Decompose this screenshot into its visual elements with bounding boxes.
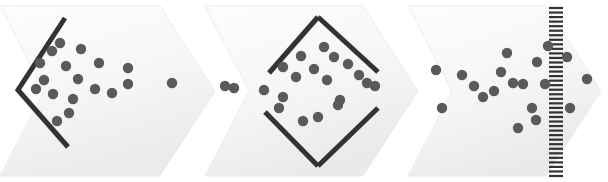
dot-stage-1 [94,58,104,68]
dot-stage-2 [313,112,323,122]
dot-stage-2 [278,92,288,102]
dot-stage-1 [64,108,74,118]
dot-stage-3 [437,103,447,113]
dot-stage-2 [343,59,353,69]
comb-tick [549,152,563,154]
dot-stage-3 [508,78,518,88]
comb-tick [549,107,563,109]
dot-stage-3 [457,70,467,80]
diagram-svg [0,0,608,182]
dot-stage-2 [319,42,329,52]
comb-tick [549,66,563,68]
dot-stage-2 [296,51,306,61]
comb-tick [549,93,563,95]
dot-stage-1 [52,116,62,126]
dot-stage-1 [31,84,41,94]
dot-stage-1 [90,84,100,94]
dot-stage-3 [565,103,575,113]
comb-tick [549,39,563,41]
comb-tick [549,30,563,32]
comb-tick [549,102,563,104]
dot-stage-1 [76,44,86,54]
comb-tick [549,34,563,36]
comb-tick [549,25,563,27]
dot-stage-1 [167,78,177,88]
dot-stage-1 [39,75,49,85]
dot-stage-3 [532,57,542,67]
dot-stage-3 [531,115,541,125]
comb-tick [549,11,563,13]
dot-stage-3 [518,79,528,89]
comb-tick [549,120,563,122]
dot-stage-3 [502,48,512,58]
dot-stage-1 [48,89,58,99]
dot-stage-2 [354,70,364,80]
comb-tick [549,75,563,77]
dot-stage-3 [496,67,506,77]
comb-tick [549,148,563,150]
comb-tick [549,143,563,145]
dot-stage-2 [259,85,269,95]
dot-stage-1 [55,38,65,48]
comb-tick [549,52,563,54]
comb-tick [549,7,563,9]
dot-stage-1 [220,81,230,91]
dot-stage-2 [274,103,284,113]
comb-tick [549,161,563,163]
dot-stage-1 [68,94,78,104]
dot-stage-3 [513,123,523,133]
dot-stage-1 [123,63,133,73]
comb-tick [549,157,563,159]
comb-tick [549,80,563,82]
comb-tick [549,111,563,113]
dot-stage-2 [278,62,288,72]
dot-stage-3 [527,103,537,113]
comb-tick [549,170,563,172]
dot-stage-3 [489,86,499,96]
comb-tick [549,70,563,72]
comb-tick [549,84,563,86]
dot-stage-2 [329,52,339,62]
dot-stage-2 [322,75,332,85]
dot-stage-2 [370,81,380,91]
dot-stage-3 [543,41,553,51]
dot-stage-1 [123,79,133,89]
panel-stage-3 [408,6,601,176]
dot-stage-3 [562,52,572,62]
comb-tick [549,89,563,91]
dot-stage-2 [309,64,319,74]
dot-stage-1 [47,46,57,56]
dot-stage-1 [61,61,71,71]
dot-stage-3 [431,65,441,75]
dot-stage-3 [582,74,592,84]
comb-tick [549,16,563,18]
dot-stage-1 [35,58,45,68]
dot-stage-3 [540,79,550,89]
comb-tick [549,116,563,118]
dot-stage-1 [107,88,117,98]
comb-tick [549,139,563,141]
comb-tick [549,166,563,168]
comb-tick [549,21,563,23]
comb-tick [549,125,563,127]
comb-tick [549,129,563,131]
comb-tick [549,175,563,177]
dot-stage-2 [229,83,239,93]
dot-stage-3 [469,81,479,91]
comb-tick [549,98,563,100]
dot-stage-2 [298,116,308,126]
comb-tick [549,134,563,136]
comb-tick [549,57,563,59]
dot-stage-3 [478,92,488,102]
dot-stage-1 [73,74,83,84]
dot-stage-2 [291,72,301,82]
dot-stage-2 [333,100,343,110]
comb-tick [549,61,563,63]
process-diagram-canvas [0,0,608,182]
